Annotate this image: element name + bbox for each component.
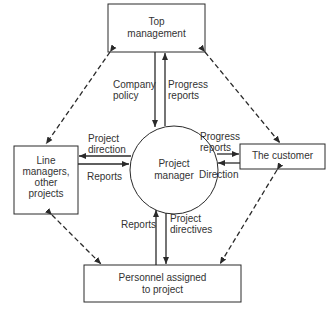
direction-right-text: Direction [199,169,238,180]
personnel-line1: Personnel assigned [84,272,241,284]
progress-reports-top-label: Progress reports [168,79,208,101]
project-manager-line2: manager [140,170,208,182]
line-managers-to-personnel-dashed [52,215,101,264]
project-direction-line1: Project [88,133,126,144]
project-direction-label: Project direction [88,133,126,155]
top-management-line2: management [108,28,205,40]
project-directives-line2: directives [170,224,212,235]
reports-bottom-text: Reports [121,219,156,230]
customer-to-personnel-dashed [220,170,277,264]
project-manager-label: Project manager [140,158,208,182]
customer-text: The customer [240,150,325,162]
company-policy-line2: policy [113,90,156,101]
line-managers-line4: projects [14,188,78,199]
personnel-line2: to project [84,284,241,296]
top-to-line-managers-dashed [46,52,110,144]
line-managers-line1: Line [14,155,78,166]
project-directives-label: Project directives [170,213,212,235]
progress-reports-top-line2: reports [168,90,208,101]
top-management-line1: Top [108,16,205,28]
line-managers-label: Line managers, other projects [14,155,78,199]
progress-reports-top-line1: Progress [168,79,208,90]
company-policy-label: Company policy [113,79,156,101]
reports-left-text: Reports [87,171,122,182]
reports-left-label: Reports [87,171,122,183]
project-directives-line1: Project [170,213,212,224]
company-policy-line1: Company [113,79,156,90]
project-direction-line2: direction [88,144,126,155]
progress-reports-right-line1: Progress [200,131,240,142]
top-management-label: Top management [108,16,205,40]
customer-label: The customer [240,150,325,162]
project-manager-line1: Project [140,158,208,170]
progress-reports-right-line2: reports [200,142,240,153]
reports-bottom-label: Reports [121,219,156,231]
line-managers-line2: managers, [14,166,78,177]
progress-reports-right-label: Progress reports [200,131,240,153]
top-to-customer-dashed [205,52,280,143]
direction-right-label: Direction [199,169,238,181]
line-managers-line3: other [14,177,78,188]
personnel-label: Personnel assigned to project [84,272,241,296]
